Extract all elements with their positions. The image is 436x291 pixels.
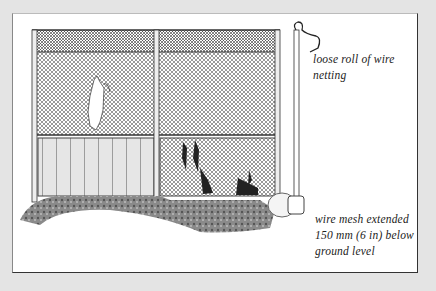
label-line: ground level [315,243,425,259]
wooden-boards [38,138,154,196]
label-line: wire mesh extended [315,211,425,227]
fence-post-left [32,30,37,202]
lower-mesh-panel [160,138,278,196]
label-wire-mesh-depth: wire mesh extended 150 mm (6 in) below g… [315,211,425,259]
label-line: loose roll of wire [313,51,423,67]
ground [20,196,275,233]
fence-post-right [275,30,280,208]
label-loose-roll: loose roll of wire netting [313,51,423,83]
fence-post-middle [154,30,159,202]
label-line: 150 mm (6 in) below [315,227,425,243]
label-line: netting [313,67,423,83]
